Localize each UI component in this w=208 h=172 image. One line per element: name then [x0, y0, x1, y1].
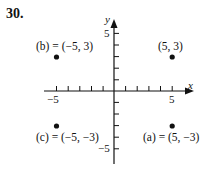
point-b: [54, 54, 59, 59]
point-5-3: [170, 54, 175, 59]
y-axis-label: y: [105, 13, 110, 25]
x-tick-5: 5: [169, 93, 175, 105]
y-tick-neg5: −5: [98, 142, 110, 154]
x-axis-label: x: [188, 79, 193, 91]
label-point-c: (c) = (−5, −3): [36, 131, 99, 143]
x-tick-neg5: −5: [47, 93, 59, 105]
label-point-b: (b) = (−5, 3): [36, 40, 93, 52]
label-point-a: (a) = (5, −3): [143, 131, 199, 143]
point-a: [170, 123, 175, 128]
point-c: [54, 123, 59, 128]
y-tick-5: 5: [104, 27, 110, 39]
label-point-5-3: (5, 3): [158, 40, 183, 52]
